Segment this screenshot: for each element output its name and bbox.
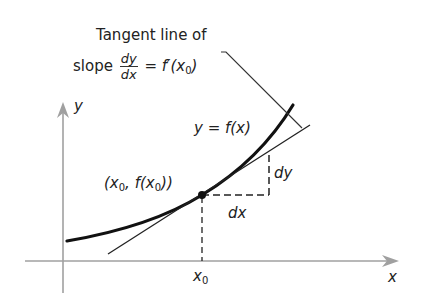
tangency-point [198, 191, 206, 199]
slope-label: slope dy dx = f′(x0) [73, 52, 197, 81]
x-axis [25, 255, 399, 267]
function-curve [67, 105, 293, 241]
curve-label: y = f(x) [194, 121, 251, 136]
leader-line [221, 52, 302, 128]
y-axis-label: y [74, 99, 83, 114]
dy-label: dy [274, 166, 292, 181]
y-axis [57, 102, 69, 293]
title-line-1: Tangent line of [96, 26, 207, 44]
fraction-numerator: dy [120, 52, 138, 67]
derivative-expression: = f′(x0) [144, 57, 197, 75]
tangent-line-title: Tangent line of [96, 28, 207, 43]
slope-fraction: dy dx [120, 52, 138, 81]
x0-label: x0 [193, 269, 208, 286]
fraction-denominator: dx [120, 67, 138, 81]
tangent-line-diagram: Tangent line of slope dy dx = f′(x0) y y… [0, 0, 422, 308]
dx-label: dx [228, 206, 246, 221]
x-axis-label: x [388, 270, 397, 285]
point-label: (x0, f(x0)) [104, 176, 173, 193]
slope-word: slope [73, 57, 113, 75]
